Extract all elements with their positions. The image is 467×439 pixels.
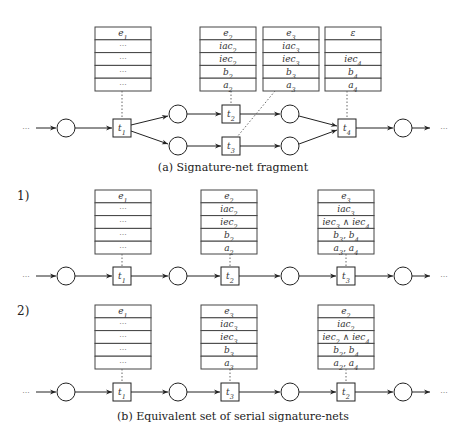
- place-circle: [169, 137, 187, 155]
- cell-ellipsis: ···: [119, 80, 127, 89]
- cell-value: ε: [351, 28, 356, 38]
- cell-ellipsis: ···: [119, 243, 127, 252]
- cell-ellipsis: ···: [119, 319, 127, 328]
- continuation-ellipsis: ···: [440, 388, 448, 397]
- place-circle: [281, 105, 299, 123]
- transition-t3: t3: [221, 383, 239, 401]
- table-net2-1: e3iac3iec3b3a3: [201, 305, 257, 372]
- cell-ellipsis: ···: [119, 358, 127, 367]
- caption-part-b: (b) Equivalent set of serial signature-n…: [117, 410, 349, 423]
- cell-ellipsis: ···: [119, 67, 127, 76]
- serial-net-label-2: 2): [17, 304, 29, 318]
- cell-ellipsis: ···: [119, 41, 127, 50]
- table-cell: [325, 40, 381, 53]
- transition-t4: t4: [338, 119, 356, 137]
- place-circle: [281, 267, 299, 285]
- transition-t1: t1: [113, 383, 131, 401]
- place-circle: [169, 383, 187, 401]
- place-circle: [394, 383, 412, 401]
- cell-ellipsis: ···: [119, 332, 127, 341]
- cell-ellipsis: ···: [119, 345, 127, 354]
- continuation-ellipsis: ···: [440, 124, 448, 133]
- place-circle: [57, 383, 75, 401]
- tableA-t3: e3iac3iec3b3a3: [263, 27, 319, 94]
- transition-t1: t1: [113, 267, 131, 285]
- continuation-ellipsis: ···: [22, 388, 30, 397]
- transition-t2: t2: [222, 105, 240, 123]
- cell-ellipsis: ···: [119, 230, 127, 239]
- cell-ellipsis: ···: [119, 204, 127, 213]
- table-net1-2: e3iac3iec3 ∧ iec4b3, b4a3, a4: [318, 190, 374, 257]
- transition-t3: t3: [337, 267, 355, 285]
- place-circle: [169, 105, 187, 123]
- place-circle: [394, 267, 412, 285]
- arc-arrow: [131, 116, 168, 125]
- continuation-ellipsis: ···: [22, 272, 30, 281]
- table-net2-0: e1············: [95, 305, 151, 369]
- place-circle: [281, 137, 299, 155]
- transition-t2: t2: [221, 267, 239, 285]
- place-circle: [281, 383, 299, 401]
- transition-t3: t3: [222, 137, 240, 155]
- table-net1-1: e2iac2iec2b2a2: [201, 190, 257, 257]
- continuation-ellipsis: ···: [440, 272, 448, 281]
- transition-t2: t2: [337, 383, 355, 401]
- table-net2-2: e2iac2iec2 ∧ iec4b2, b4a2, a4: [318, 305, 374, 372]
- transition-t1: t1: [113, 119, 131, 137]
- cell-ellipsis: ···: [119, 54, 127, 63]
- table-net1-0: e1············: [95, 190, 151, 254]
- arc-arrow: [299, 130, 337, 144]
- tableA-t4: εiec4b4a4: [325, 27, 381, 94]
- continuation-ellipsis: ···: [22, 124, 30, 133]
- serial-net-label-1: 1): [17, 189, 29, 203]
- cell-ellipsis: ···: [119, 217, 127, 226]
- caption-part-a: (a) Signature-net fragment: [158, 161, 309, 174]
- place-circle: [169, 267, 187, 285]
- place-circle: [57, 267, 75, 285]
- arc-arrow: [299, 116, 337, 126]
- place-circle: [57, 119, 75, 137]
- tableA-t1: e1············: [95, 27, 151, 91]
- signature-net-diagram: e1············e2iac2iec2b2a2e3iac3iec3b3…: [0, 0, 467, 439]
- tableA-t2: e2iac2iec2b2a2: [200, 27, 256, 94]
- place-circle: [394, 119, 412, 137]
- arc-arrow: [131, 131, 168, 144]
